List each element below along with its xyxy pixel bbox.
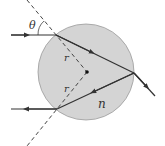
theta-label: θ xyxy=(29,19,36,32)
n-label: n xyxy=(98,97,106,111)
refraction-diagram: θ r r n xyxy=(0,0,165,146)
transmitted-ray-arrow-icon xyxy=(134,73,147,87)
theta-arc-icon xyxy=(38,21,44,35)
center-dot xyxy=(85,70,89,74)
